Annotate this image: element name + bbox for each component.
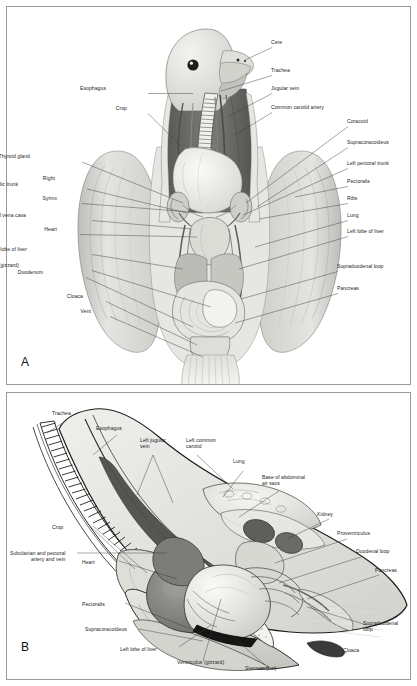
label-a-right-11: Supraduodenal loop [337, 263, 384, 269]
label-a-left-9: Ventriculus (gizzard) [0, 262, 19, 268]
panel-b-letter: B [21, 640, 30, 654]
label-b-11: Duodenal loop [356, 548, 390, 554]
figure-page: A [0, 0, 417, 686]
label-a-right-10: Left lobe of liver [347, 228, 384, 234]
label-a-left-10: Duodenum [18, 269, 43, 275]
label-a-left-7: Heart [44, 226, 57, 232]
label-b-23: artery and vein [31, 556, 65, 562]
label-b-10: Proventriculus [337, 530, 370, 536]
label-a-right-8: Ribs [347, 195, 357, 201]
label-b-5: carotid [186, 443, 202, 449]
intestinal-mass [172, 281, 244, 343]
label-b-15: Cloaca [343, 647, 359, 653]
panel-a-letter: A [21, 355, 30, 369]
label-a-right-12: Pancreas [337, 285, 359, 291]
label-a-right-7: Pectoralis [347, 178, 370, 184]
label-b-20: Pectoralis [82, 601, 105, 607]
label-b-0: Trachea [52, 410, 71, 416]
label-b-14: loop [363, 626, 373, 632]
label-a-right-4: Coracoid [347, 118, 368, 124]
label-a-right-6: Left pectoral trunk [347, 160, 389, 166]
label-a-left-3: Right [43, 175, 55, 181]
cloaca [307, 641, 344, 657]
label-a-left-11: Cloaca [67, 293, 83, 299]
label-b-16: Ventriculus (gizzard) [177, 659, 224, 665]
label-b-17: Sternum (cut) [245, 665, 277, 671]
label-a-left-5: Syrinx [43, 195, 57, 201]
label-a-left-6: Caudal vena cava [0, 212, 26, 218]
label-a-left-12: Vent [81, 308, 91, 314]
label-a-right-9: Lung [347, 212, 359, 218]
label-b-6: Lung [233, 458, 245, 464]
label-a-left-2: Thyroid gland [0, 153, 30, 159]
panel-b: B [6, 392, 411, 680]
label-a-right-3: Common carotid artery [271, 104, 324, 110]
label-a-right-0: Cere [271, 39, 282, 45]
label-b-8: air sacs [262, 480, 280, 486]
label-b-21: Heart [82, 559, 95, 565]
label-a-right-2: Jugular vein [271, 85, 299, 91]
label-a-left-4: brachiocephalic trunk [0, 181, 18, 187]
label-a-left-1: Crop [116, 105, 127, 111]
label-b-24: Crop [52, 524, 63, 530]
label-b-3: vein [140, 443, 150, 449]
label-b-1: Esophagus [96, 425, 122, 431]
label-a-right-5: Supracoracoideus [347, 139, 389, 145]
label-b-12: Pancreas [375, 567, 397, 573]
label-b-18: Left lobe of liver [120, 646, 157, 652]
label-b-9: Kidney [317, 511, 333, 517]
tail-feathers [182, 355, 240, 385]
label-a-right-1: Trachea [271, 67, 290, 73]
label-b-19: Supracoracoideus [85, 626, 127, 632]
label-a-left-8: Right lobe of liver [0, 246, 27, 252]
label-a-left-0: Esophagus [80, 85, 106, 91]
